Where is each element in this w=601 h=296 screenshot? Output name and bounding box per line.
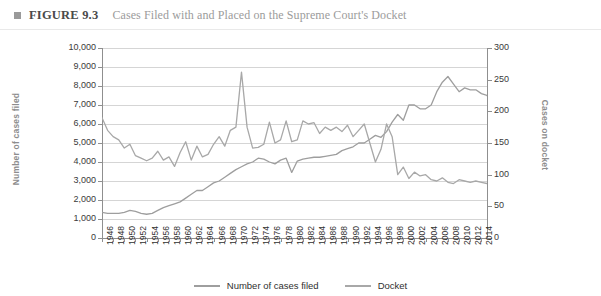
figure-header: FIGURE 9.3 Cases Filed with and Placed o… [0,0,601,30]
right-tick-label: 300 [494,43,534,52]
legend-swatch-docket [345,285,371,287]
legend-item-filed: Number of cases filed [194,280,319,291]
left-tick-label: 3,000 [48,176,96,185]
right-axis-title: Cases on docket [540,75,550,195]
left-tick-label: 9,000 [48,62,96,71]
chart-legend: Number of cases filed Docket [0,280,601,291]
square-bullet-icon [14,12,21,19]
left-tick-label: 0 [48,233,96,242]
right-tick-mark [488,111,492,112]
right-tick-mark [488,80,492,81]
chart-container: Number of cases filed Cases on docket 01… [0,30,601,296]
left-tick-label: 5,000 [48,138,96,147]
right-tick-mark [488,143,492,144]
right-tick-label: 100 [494,170,534,179]
series-plot [102,48,487,239]
right-tick-label: 150 [494,138,534,147]
left-tick-label: 2,000 [48,195,96,204]
left-tick-label: 4,000 [48,157,96,166]
series-line-cases-filed [102,77,487,215]
left-tick-label: 7,000 [48,100,96,109]
right-axis-line [487,48,488,239]
left-tick-label: 6,000 [48,119,96,128]
legend-item-docket: Docket [345,280,408,291]
legend-swatch-filed [194,285,220,287]
left-tick-label: 8,000 [48,81,96,90]
right-tick-label: 0 [494,233,534,242]
right-tick-mark [488,175,492,176]
legend-label-filed: Number of cases filed [227,280,319,291]
figure-number: FIGURE 9.3 [29,8,98,23]
right-tick-label: 50 [494,201,534,210]
legend-label-docket: Docket [378,280,408,291]
left-axis-title: Number of cases filed [11,79,21,199]
figure-title: Cases Filed with and Placed on the Supre… [112,8,406,23]
right-tick-mark [488,206,492,207]
right-tick-label: 250 [494,75,534,84]
left-tick-label: 10,000 [48,43,96,52]
right-tick-mark [488,48,492,49]
right-tick-label: 200 [494,106,534,115]
left-tick-label: 1,000 [48,214,96,223]
